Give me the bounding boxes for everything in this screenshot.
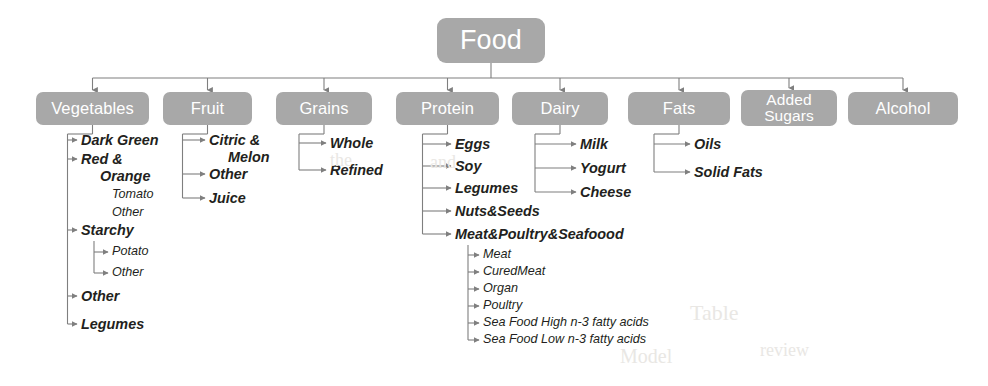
leaf-curedmeat[interactable]: CuredMeat <box>483 264 545 278</box>
leaf-poultry[interactable]: Poultry <box>483 298 522 312</box>
scan-bleed-text: and <box>430 152 456 173</box>
node-label: Protein <box>421 100 474 117</box>
leaf-meat[interactable]: Meat <box>483 247 511 261</box>
node-label: Vegetables <box>51 100 134 117</box>
node-label: Grains <box>299 100 348 117</box>
category-node-protein[interactable]: Protein <box>396 92 499 125</box>
leaf-citric[interactable]: Citric & <box>209 132 260 148</box>
node-label: Fats <box>663 100 696 117</box>
leaf-legumes[interactable]: Legumes <box>455 180 518 196</box>
leaf-melon[interactable]: Melon <box>228 149 270 165</box>
leaf-milk[interactable]: Milk <box>580 136 608 152</box>
leaf-refined[interactable]: Refined <box>330 162 383 178</box>
leaf-other[interactable]: Other <box>81 288 119 304</box>
leaf-cheese[interactable]: Cheese <box>580 184 631 200</box>
leaf-potato[interactable]: Potato <box>112 244 148 258</box>
leaf-orange[interactable]: Orange <box>100 168 150 184</box>
leaf-tomato[interactable]: Tomato <box>112 187 154 201</box>
category-node-fats[interactable]: Fats <box>628 92 730 125</box>
leaf-meat-poultry-seafoood[interactable]: Meat&Poultry&Seafoood <box>455 226 624 242</box>
leaf-juice[interactable]: Juice <box>209 190 246 206</box>
leaf-organ[interactable]: Organ <box>483 281 518 295</box>
node-label: Fruit <box>191 100 225 117</box>
node-label: Alcohol <box>876 100 931 117</box>
category-node-added-sugars[interactable]: Added Sugars <box>741 90 837 126</box>
category-node-vegetables[interactable]: Vegetables <box>36 92 149 125</box>
diagram-canvas: FoodVegetablesFruitGrainsProteinDairyFat… <box>0 0 988 386</box>
leaf-nuts-seeds[interactable]: Nuts&Seeds <box>455 203 540 219</box>
leaf-other[interactable]: Other <box>112 265 144 279</box>
scan-bleed-text: review <box>760 340 809 361</box>
scan-bleed-text: Table <box>690 300 739 326</box>
category-node-fruit[interactable]: Fruit <box>163 92 252 125</box>
leaf-other[interactable]: Other <box>209 166 247 182</box>
leaf-sea-food-low-n-3-fatty-acids[interactable]: Sea Food Low n-3 fatty acids <box>483 332 646 346</box>
category-node-dairy[interactable]: Dairy <box>512 92 608 125</box>
root-node-food[interactable]: Food <box>437 18 545 63</box>
leaf-red[interactable]: Red & <box>81 151 123 167</box>
leaf-dark-green[interactable]: Dark Green <box>81 132 159 148</box>
leaf-sea-food-high-n-3-fatty-acids[interactable]: Sea Food High n-3 fatty acids <box>483 315 649 329</box>
category-node-grains[interactable]: Grains <box>276 92 372 125</box>
node-label: Added Sugars <box>764 92 814 125</box>
leaf-oils[interactable]: Oils <box>694 136 721 152</box>
leaf-eggs[interactable]: Eggs <box>455 136 490 152</box>
leaf-solid-fats[interactable]: Solid Fats <box>694 164 763 180</box>
leaf-legumes[interactable]: Legumes <box>81 316 144 332</box>
node-label: Dairy <box>540 100 579 117</box>
node-label: Food <box>460 27 522 55</box>
scan-bleed-text: Model <box>620 345 672 368</box>
leaf-whole[interactable]: Whole <box>330 135 373 151</box>
leaf-other[interactable]: Other <box>112 205 144 219</box>
leaf-starchy[interactable]: Starchy <box>81 222 134 238</box>
leaf-yogurt[interactable]: Yogurt <box>580 160 626 176</box>
category-node-alcohol[interactable]: Alcohol <box>848 92 958 125</box>
leaf-soy[interactable]: Soy <box>455 158 481 174</box>
